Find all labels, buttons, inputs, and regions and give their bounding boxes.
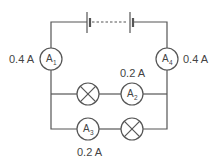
a4-reading: 0.4 A bbox=[183, 53, 209, 65]
left-wire bbox=[51, 70, 77, 129]
top-wire bbox=[51, 22, 167, 48]
svg-text:4: 4 bbox=[169, 59, 173, 66]
svg-text:A: A bbox=[127, 88, 134, 99]
svg-text:1: 1 bbox=[53, 59, 57, 66]
a2-reading: 0.2 A bbox=[120, 67, 146, 79]
ammeter-a3-icon: A 3 bbox=[77, 118, 99, 140]
right-wire bbox=[143, 70, 167, 129]
ammeter-a2-icon: A 2 bbox=[121, 83, 143, 105]
battery-icon bbox=[87, 12, 133, 33]
a3-reading: 0.2 A bbox=[77, 146, 103, 158]
svg-text:A: A bbox=[46, 53, 53, 64]
svg-text:A: A bbox=[162, 53, 169, 64]
svg-text:A: A bbox=[83, 123, 90, 134]
svg-text:2: 2 bbox=[134, 94, 138, 101]
ammeter-a1-icon: A 1 bbox=[40, 48, 62, 70]
circuit-diagram: A 1 0.4 A A 4 0.4 A A 2 0.2 A A 3 0.2 A bbox=[0, 0, 213, 163]
a1-reading: 0.4 A bbox=[9, 53, 35, 65]
svg-text:3: 3 bbox=[90, 129, 94, 136]
lamp-upper-icon bbox=[77, 83, 99, 105]
ammeter-a4-icon: A 4 bbox=[156, 48, 178, 70]
lamp-lower-icon bbox=[121, 118, 143, 140]
